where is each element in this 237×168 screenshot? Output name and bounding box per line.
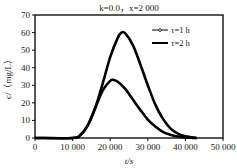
y-tick-label: 20 — [21, 98, 31, 108]
chart-title: k=0.0，x=2 000 — [99, 3, 159, 13]
x-tick-label: 30 000 — [135, 142, 160, 152]
legend-label-1: τ=1 h — [171, 25, 191, 35]
legend-label-2: τ=2 h — [171, 38, 191, 48]
plot-border — [35, 15, 223, 138]
x-tick-label: 10 000 — [60, 142, 85, 152]
y-tick-label: 0 — [26, 133, 31, 143]
x-tick-label: 40 000 — [173, 142, 198, 152]
y-tick-label: 10 — [21, 115, 31, 125]
y-axis-label: c/（mg/L） — [3, 55, 13, 99]
x-tick-label: 20 000 — [98, 142, 123, 152]
y-tick-label: 70 — [21, 10, 31, 20]
y-axis: 010203040506070 — [21, 10, 35, 143]
legend: τ=1 hτ=2 h — [152, 25, 191, 48]
y-tick-label: 60 — [21, 28, 31, 38]
x-tick-label: 0 — [33, 142, 38, 152]
y-tick-label: 30 — [21, 80, 31, 90]
x-tick-label: 50 000 — [211, 142, 236, 152]
y-tick-label: 40 — [21, 63, 31, 73]
legend-marker-icon — [159, 29, 162, 32]
plot-area — [35, 15, 223, 138]
x-axis: 010 00020 00030 00040 00050 000 — [33, 138, 236, 152]
concentration-chart: k=0.0，x=2 000 010203040506070 010 00020 … — [0, 0, 237, 168]
y-tick-label: 50 — [21, 45, 31, 55]
x-axis-label: t/s — [125, 156, 134, 166]
